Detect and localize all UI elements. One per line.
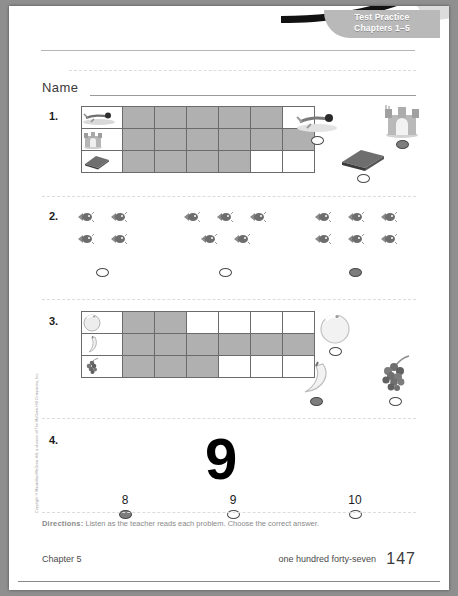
problem-divider-4 [42,512,416,513]
problem-1-choice-sandcastle[interactable] [381,104,423,149]
cell [283,151,315,173]
problem-3-pictograph [81,311,315,378]
row-label-grapes [82,356,123,378]
problem-4-choice-9[interactable]: 9 [213,490,253,519]
problem-4-number: 4. [49,434,58,446]
fish-icon [345,210,365,224]
problem-divider-2 [42,299,416,300]
grapes-icon [82,357,122,376]
answer-bubble[interactable] [396,140,409,149]
problem-divider-1 [42,196,416,197]
fish-row [75,206,130,228]
cell [219,312,251,334]
cell [219,107,251,129]
book-icon [337,146,389,172]
fish-icon [214,210,234,224]
cell [283,312,315,334]
sandcastle-icon [381,104,423,138]
problem-3-choice-orange[interactable] [314,311,356,356]
answer-bubble[interactable] [219,268,232,277]
cell [187,151,219,173]
fish-row [312,206,398,228]
fish-row [181,228,269,250]
cell [251,129,283,151]
fish-icon [378,232,398,246]
problem-4-choice-8[interactable]: 8 [105,490,145,519]
fish-icon [108,210,128,224]
row-label-orange [82,312,123,334]
bubble-wrap [314,347,356,356]
choice-label: 9 [230,493,237,507]
answer-bubble[interactable] [329,347,342,356]
page-header: Test Practice Chapters 1–5 [9,6,449,52]
test-practice-banner: Test Practice Chapters 1–5 [324,10,440,38]
directions-body: Listen as the teacher reads each problem… [85,519,318,528]
table-row [82,356,315,378]
table-row [82,334,315,356]
directions-label: Directions: [42,519,83,528]
cell [155,151,187,173]
sandcastle-icon [82,130,122,149]
bubble-wrap [181,268,269,277]
problem-1-choice-swimmer[interactable] [295,108,339,145]
fish-icon [378,210,398,224]
cell [219,334,251,356]
fish-icon [75,232,95,246]
problem-1-choice-book[interactable] [337,146,389,183]
fish-icon [75,210,95,224]
problem-3: 3. [9,311,449,411]
cell [123,151,155,173]
fish-icon [247,210,267,224]
bubble-wrap [293,397,339,406]
fish-icon [108,232,128,246]
answer-bubble[interactable] [357,174,370,183]
footer-page-number: 147 [386,550,416,568]
page-footer: Chapter 5 one hundred forty-seven 147 [42,554,416,570]
bubble-wrap [75,268,130,277]
name-label: Name [42,80,78,95]
banner-title-line2: Chapters 1–5 [324,23,440,34]
footer-page-words: one hundred forty-seven [278,554,376,564]
table-row [82,107,315,129]
directions-text: Directions: Listen as the teacher reads … [42,519,422,528]
bubble-wrap [337,174,389,183]
problem-3-choice-banana[interactable] [293,361,339,406]
cell [251,334,283,356]
name-input-line[interactable] [90,95,416,96]
table-row [82,129,315,151]
problem-3-number: 3. [49,315,58,327]
problem-2-group-1 [75,206,130,277]
copyright-notice: Copyright © Macmillan/McGraw-Hill, a div… [35,363,39,513]
cell [123,129,155,151]
answer-bubble[interactable] [310,397,323,406]
answer-bubble[interactable] [389,397,402,406]
problem-1: 1. [9,106,449,186]
problem-4-choice-10[interactable]: 10 [335,490,375,519]
fish-row [75,228,130,250]
bubble-wrap [369,397,421,406]
answer-bubble[interactable] [349,268,362,277]
answer-bubble[interactable] [311,136,324,145]
fish-row [312,228,398,250]
cell [251,312,283,334]
cell [219,151,251,173]
cell [155,334,187,356]
name-field-row: Name [42,80,416,100]
problem-1-number: 1. [49,110,58,122]
cell [155,312,187,334]
orange-icon [82,313,122,332]
cell [251,356,283,378]
problem-divider-3 [42,418,416,419]
cell [123,334,155,356]
fish-row [181,206,269,228]
cell [187,312,219,334]
cell [251,107,283,129]
banana-icon [82,335,122,354]
problem-3-choice-grapes[interactable] [369,355,421,406]
problem-2-group-2 [181,206,269,277]
cell [187,356,219,378]
fish-icon [312,210,332,224]
problem-2-number: 2. [49,210,58,222]
answer-bubble[interactable] [96,268,109,277]
cell [123,356,155,378]
